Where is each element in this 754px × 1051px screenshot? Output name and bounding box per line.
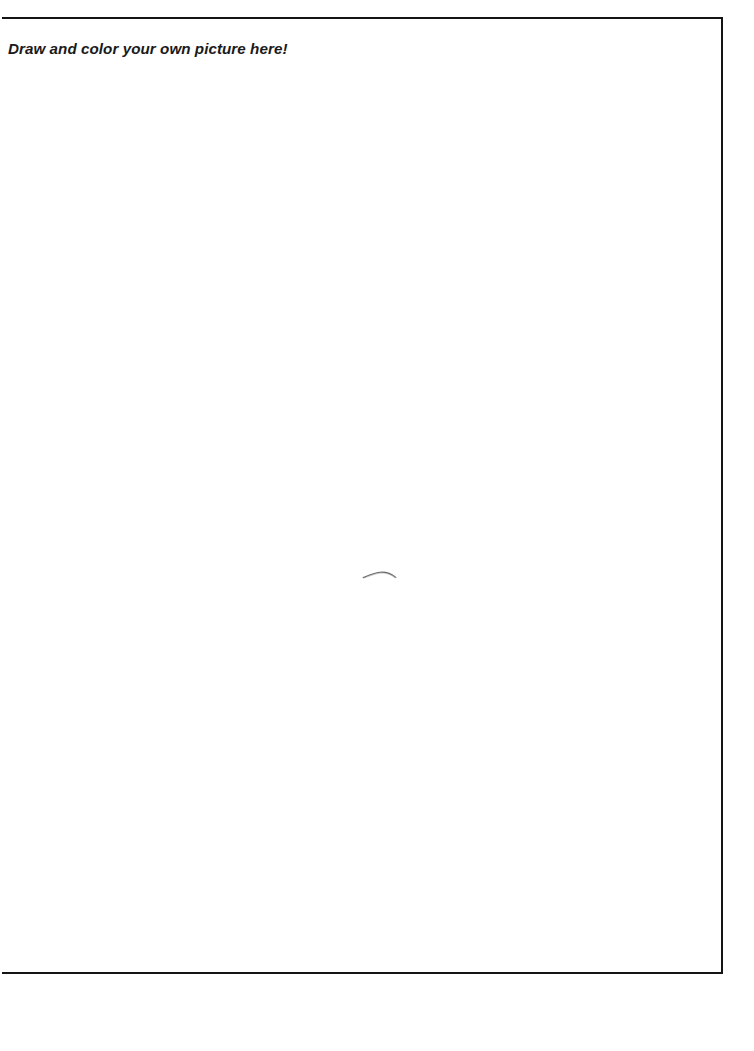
drawing-canvas[interactable] <box>2 64 721 972</box>
stray-pencil-stroke-mark <box>357 564 403 588</box>
worksheet-page: Draw and color your own picture here! <box>0 0 754 1051</box>
page-title: Draw and color your own picture here! <box>8 39 288 58</box>
pencil-stroke-icon <box>357 564 403 588</box>
